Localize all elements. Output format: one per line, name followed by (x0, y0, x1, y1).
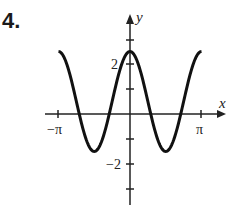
x-axis-arrow-icon (217, 110, 226, 118)
x-tick-label-pi: π (196, 122, 203, 137)
y-tick-label-neg-2: −2 (106, 157, 121, 172)
x-tick-label-neg-pi: −π (47, 122, 62, 137)
y-axis-label: y (134, 9, 143, 25)
y-tick-label-2: 2 (111, 57, 118, 72)
x-axis-label: x (218, 95, 226, 111)
graph: −π π 2 −2 x y (0, 0, 242, 211)
y-axis-arrow-icon (126, 14, 134, 24)
